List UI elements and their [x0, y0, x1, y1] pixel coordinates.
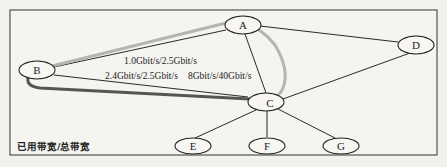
network-topology-diagram: 1.0Gbit/s/2.5Gbit/s 2.4Gbit/s/2.5Gbit/s … [0, 0, 447, 167]
node-e-label: E [190, 140, 197, 152]
node-f-label: F [264, 140, 270, 152]
legend-used-total-bandwidth: 已用带宽/总带宽 [17, 141, 90, 152]
node-f: F [249, 138, 285, 154]
node-a: A [225, 16, 261, 34]
node-d-label: D [412, 39, 420, 51]
node-g-label: G [337, 140, 345, 152]
node-c: C [248, 93, 284, 111]
edge-label-a-c: 8Gbit/s/40Gbit/s [188, 71, 252, 81]
node-b-label: B [33, 64, 40, 76]
diagram-frame [10, 10, 437, 155]
node-a-label: A [239, 19, 247, 31]
node-g: G [323, 138, 359, 154]
edge-label-b-c: 2.4Gbit/s/2.5Gbit/s [105, 71, 178, 81]
node-c-label: C [266, 97, 273, 109]
node-b: B [19, 61, 55, 79]
edge-label-a-b: 1.0Gbit/s/2.5Gbit/s [124, 56, 197, 66]
node-d: D [398, 36, 434, 54]
node-e: E [175, 138, 211, 154]
